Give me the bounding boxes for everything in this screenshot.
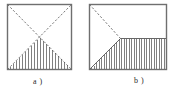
panel-b-dashed-descending-line [90,5,121,39]
panel-b-hatched-region [92,39,167,71]
panel-b-caption: b ) [134,77,144,85]
panel-b [90,5,167,71]
panel-a [8,5,72,71]
panel-b-frame [90,5,167,70]
panel-a-caption: a ) [33,78,43,86]
panel-b-solid-ramp-line [90,39,121,70]
figure-container: a ) b ) [0,0,170,91]
panel-a-hatched-triangle [11,38,68,70]
diagram-svg [0,0,170,91]
